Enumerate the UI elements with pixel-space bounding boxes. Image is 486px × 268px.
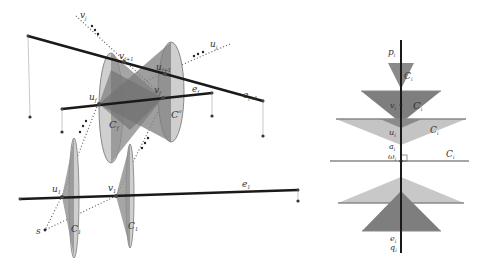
left-figure: vj uj s vf+1 uf+1 uf vf u1 v1 ef+1 ef e1… xyxy=(19,10,300,258)
label-ci1: Ci xyxy=(404,71,413,82)
label-uf: uf xyxy=(89,92,98,104)
label-c1v: C1 xyxy=(128,221,138,232)
diagram-canvas: vj uj s vf+1 uf+1 uf vf u1 v1 ef+1 ef e1… xyxy=(0,0,486,268)
label-pi: pi xyxy=(388,47,396,58)
label-qi: qi xyxy=(390,243,397,253)
label-ef+1: ef+1 xyxy=(243,90,258,102)
label-uj: uj xyxy=(210,39,218,51)
label-e1: e1 xyxy=(242,179,251,190)
right-figure: pi Ci vi Ci ui Ci ai ωi Ci ei qi xyxy=(330,40,469,253)
label-v1: v1 xyxy=(108,183,116,194)
label-ai: ai xyxy=(389,142,396,152)
label-wi: ωi xyxy=(388,152,397,162)
label-u1: u1 xyxy=(52,184,61,195)
label-s: s xyxy=(36,226,41,236)
label-ciw: Ci xyxy=(446,149,455,160)
label-c1u: C1 xyxy=(71,224,81,235)
